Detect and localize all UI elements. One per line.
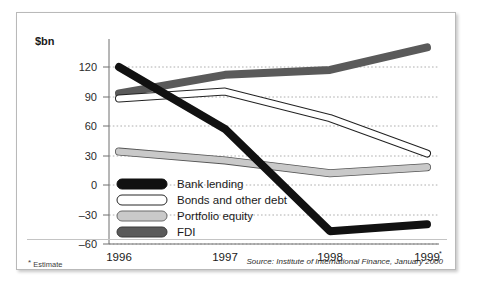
legend-swatch-bank-lending bbox=[117, 179, 167, 189]
series-line-bank-lending bbox=[119, 67, 427, 231]
estimate-footnote: * Estimate bbox=[28, 258, 62, 269]
series-line-fdi bbox=[119, 47, 427, 93]
chart-legend: Bank lending Bonds and other debt Portfo… bbox=[117, 178, 288, 238]
x-tick-label-1996: 1996 bbox=[106, 251, 132, 263]
legend-label-bonds-and-other-debt: Bonds and other debt bbox=[177, 194, 288, 206]
y-tick-label-120: 120 bbox=[79, 61, 97, 73]
legend-swatch-fdi bbox=[117, 227, 167, 237]
estimate-footnote-marker: * bbox=[28, 258, 31, 267]
footer-divider bbox=[27, 239, 447, 240]
legend-label-fdi: FDI bbox=[177, 226, 196, 238]
legend-label-bank-lending: Bank lending bbox=[177, 178, 244, 190]
legend-label-portfolio-equity: Portfolio equity bbox=[177, 210, 253, 222]
y-tick-label-0: 0 bbox=[91, 179, 97, 191]
y-tick-label-30: 30 bbox=[85, 150, 97, 162]
legend-swatch-bonds-and-other-debt bbox=[117, 195, 167, 205]
estimate-footnote-text: Estimate bbox=[33, 260, 62, 269]
y-tick-label-90: 90 bbox=[85, 91, 97, 103]
x-tick-superscript-1999: * bbox=[439, 250, 442, 257]
series-line-bonds bbox=[119, 92, 427, 154]
y-tick-label-neg30: –30 bbox=[79, 209, 97, 221]
x-tick-label-1997: 1997 bbox=[212, 251, 238, 263]
chart-figure: $bn 120 90 60 30 0 – bbox=[16, 12, 456, 270]
legend-swatch-portfolio-equity bbox=[117, 211, 167, 221]
source-note: Source: Institute of International Finan… bbox=[246, 257, 443, 266]
y-tick-label-60: 60 bbox=[85, 120, 97, 132]
y-axis-ticks bbox=[103, 67, 109, 244]
line-chart-plot: 120 90 60 30 0 –30 –60 Bank lending Bond… bbox=[17, 13, 457, 271]
